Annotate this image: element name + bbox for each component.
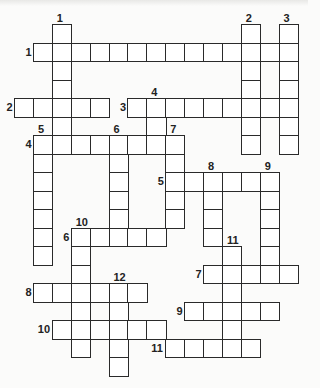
crossword-cell[interactable] bbox=[203, 339, 223, 359]
crossword-cell[interactable] bbox=[260, 228, 280, 248]
crossword-cell[interactable] bbox=[109, 339, 129, 359]
crossword-cell[interactable] bbox=[52, 80, 72, 100]
crossword-cell[interactable] bbox=[71, 265, 91, 285]
crossword-cell[interactable] bbox=[241, 302, 261, 322]
crossword-cell[interactable] bbox=[90, 135, 110, 155]
crossword-cell[interactable] bbox=[203, 191, 223, 211]
crossword-cell[interactable] bbox=[52, 61, 72, 81]
crossword-cell[interactable] bbox=[241, 265, 261, 285]
crossword-cell[interactable] bbox=[203, 43, 223, 63]
crossword-cell[interactable] bbox=[146, 117, 166, 137]
crossword-cell[interactable] bbox=[33, 43, 53, 63]
crossword-cell[interactable] bbox=[184, 98, 204, 118]
crossword-cell[interactable] bbox=[109, 283, 129, 303]
crossword-cell[interactable] bbox=[203, 302, 223, 322]
crossword-cell[interactable] bbox=[33, 98, 53, 118]
crossword-cell[interactable] bbox=[241, 80, 261, 100]
crossword-cell[interactable] bbox=[241, 117, 261, 137]
crossword-cell[interactable] bbox=[33, 154, 53, 174]
crossword-cell[interactable] bbox=[203, 172, 223, 192]
crossword-cell[interactable] bbox=[52, 24, 72, 44]
crossword-cell[interactable] bbox=[222, 43, 242, 63]
crossword-cell[interactable] bbox=[52, 283, 72, 303]
crossword-cell[interactable] bbox=[71, 228, 91, 248]
crossword-cell[interactable] bbox=[146, 135, 166, 155]
crossword-cell[interactable] bbox=[71, 135, 91, 155]
crossword-cell[interactable] bbox=[71, 283, 91, 303]
crossword-cell[interactable] bbox=[279, 24, 299, 44]
crossword-cell[interactable] bbox=[127, 43, 147, 63]
crossword-cell[interactable] bbox=[279, 265, 299, 285]
crossword-cell[interactable] bbox=[222, 246, 242, 266]
crossword-cell[interactable] bbox=[33, 246, 53, 266]
crossword-cell[interactable] bbox=[165, 191, 185, 211]
crossword-cell[interactable] bbox=[279, 135, 299, 155]
crossword-cell[interactable] bbox=[279, 117, 299, 137]
crossword-cell[interactable] bbox=[90, 320, 110, 340]
crossword-cell[interactable] bbox=[90, 98, 110, 118]
crossword-cell[interactable] bbox=[203, 98, 223, 118]
crossword-cell[interactable] bbox=[279, 43, 299, 63]
crossword-cell[interactable] bbox=[52, 320, 72, 340]
crossword-cell[interactable] bbox=[222, 339, 242, 359]
crossword-cell[interactable] bbox=[260, 302, 280, 322]
crossword-cell[interactable] bbox=[109, 209, 129, 229]
crossword-cell[interactable] bbox=[33, 283, 53, 303]
crossword-cell[interactable] bbox=[165, 43, 185, 63]
crossword-cell[interactable] bbox=[260, 246, 280, 266]
crossword-cell[interactable] bbox=[127, 320, 147, 340]
crossword-cell[interactable] bbox=[203, 209, 223, 229]
crossword-cell[interactable] bbox=[52, 135, 72, 155]
crossword-cell[interactable] bbox=[260, 209, 280, 229]
crossword-cell[interactable] bbox=[71, 246, 91, 266]
crossword-cell[interactable] bbox=[109, 320, 129, 340]
crossword-cell[interactable] bbox=[260, 43, 280, 63]
crossword-cell[interactable] bbox=[222, 98, 242, 118]
crossword-cell[interactable] bbox=[165, 209, 185, 229]
crossword-cell[interactable] bbox=[260, 191, 280, 211]
crossword-cell[interactable] bbox=[52, 117, 72, 137]
crossword-cell[interactable] bbox=[165, 154, 185, 174]
crossword-cell[interactable] bbox=[71, 320, 91, 340]
crossword-cell[interactable] bbox=[222, 283, 242, 303]
crossword-cell[interactable] bbox=[241, 61, 261, 81]
crossword-cell[interactable] bbox=[260, 98, 280, 118]
crossword-cell[interactable] bbox=[33, 191, 53, 211]
crossword-cell[interactable] bbox=[109, 191, 129, 211]
crossword-cell[interactable] bbox=[241, 339, 261, 359]
crossword-cell[interactable] bbox=[222, 172, 242, 192]
crossword-cell[interactable] bbox=[71, 43, 91, 63]
crossword-cell[interactable] bbox=[146, 98, 166, 118]
crossword-cell[interactable] bbox=[109, 172, 129, 192]
crossword-cell[interactable] bbox=[279, 98, 299, 118]
crossword-cell[interactable] bbox=[52, 43, 72, 63]
crossword-cell[interactable] bbox=[71, 302, 91, 322]
crossword-cell[interactable] bbox=[184, 43, 204, 63]
crossword-cell[interactable] bbox=[146, 43, 166, 63]
crossword-cell[interactable] bbox=[109, 43, 129, 63]
crossword-cell[interactable] bbox=[165, 339, 185, 359]
crossword-cell[interactable] bbox=[184, 302, 204, 322]
crossword-cell[interactable] bbox=[127, 228, 147, 248]
crossword-cell[interactable] bbox=[260, 265, 280, 285]
crossword-cell[interactable] bbox=[222, 320, 242, 340]
crossword-cell[interactable] bbox=[222, 302, 242, 322]
crossword-cell[interactable] bbox=[241, 24, 261, 44]
crossword-cell[interactable] bbox=[222, 265, 242, 285]
crossword-cell[interactable] bbox=[241, 98, 261, 118]
crossword-cell[interactable] bbox=[33, 172, 53, 192]
crossword-cell[interactable] bbox=[241, 172, 261, 192]
crossword-cell[interactable] bbox=[127, 135, 147, 155]
crossword-cell[interactable] bbox=[146, 320, 166, 340]
crossword-cell[interactable] bbox=[241, 135, 261, 155]
crossword-cell[interactable] bbox=[165, 98, 185, 118]
crossword-cell[interactable] bbox=[165, 135, 185, 155]
crossword-cell[interactable] bbox=[90, 283, 110, 303]
crossword-cell[interactable] bbox=[109, 302, 129, 322]
crossword-cell[interactable] bbox=[279, 61, 299, 81]
crossword-cell[interactable] bbox=[109, 154, 129, 174]
crossword-cell[interactable] bbox=[203, 228, 223, 248]
crossword-cell[interactable] bbox=[52, 98, 72, 118]
crossword-cell[interactable] bbox=[165, 172, 185, 192]
crossword-cell[interactable] bbox=[90, 228, 110, 248]
